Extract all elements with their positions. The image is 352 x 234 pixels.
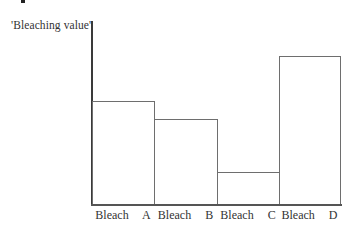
cropped-glyph — [21, 0, 25, 3]
bar-bleach-c — [217, 172, 280, 205]
x-tick-label: Bleach D — [279, 208, 340, 223]
bar-bleach-a — [92, 101, 155, 205]
y-axis-label: 'Bleaching value' — [11, 19, 91, 31]
bar-bleach-b — [154, 119, 218, 205]
x-tick-label: Bleach C — [217, 208, 279, 223]
bar-bleach-d — [279, 56, 341, 205]
x-tick-label: Bleach B — [154, 208, 217, 223]
x-axis — [91, 204, 342, 206]
x-tick-label: Bleach A — [92, 208, 154, 223]
